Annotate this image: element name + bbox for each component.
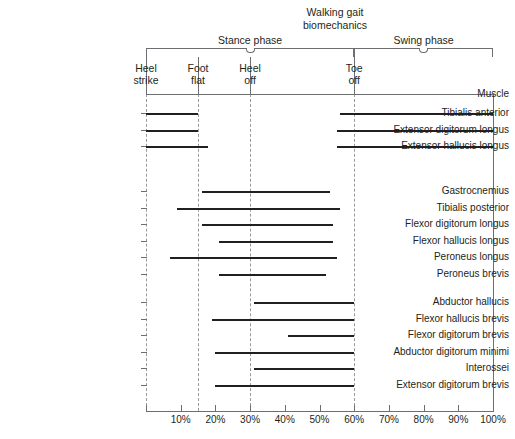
muscle-label-flexor-hallucis-brevis: Flexor hallucis brevis	[369, 313, 515, 324]
xtick-60	[354, 405, 355, 412]
muscle-label-peroneus-longus: Peroneus longus	[369, 251, 515, 262]
axis-left-cap	[146, 405, 147, 412]
muscle-label-flexor-hallucis-longus: Flexor hallucis longus	[369, 235, 515, 246]
muscle-row-tick-flexor-hallucis-brevis	[141, 319, 147, 320]
xtick-30	[250, 405, 251, 412]
event-gridline-1	[198, 94, 199, 411]
gait-biomechanics-chart: Walking gait biomechanics Stance phaseSw…	[0, 0, 515, 439]
muscle-label-abductor-digitorum-minimi: Abductor digitorum minimi	[369, 346, 515, 357]
muscle-label-gastrocnemius: Gastrocnemius	[369, 185, 515, 196]
xtick-40	[285, 405, 286, 412]
muscle-bar-peroneus-brevis-0	[219, 274, 327, 276]
muscle-label-tibialis-posterior: Tibialis posterior	[369, 202, 515, 213]
xtick-70	[389, 405, 390, 412]
xtick-100	[493, 405, 494, 412]
muscle-bar-interossei-0	[254, 368, 355, 370]
xtick-90	[458, 405, 459, 412]
muscle-label-flexor-digitorum-longus: Flexor digitorum longus	[369, 218, 515, 229]
muscle-bar-abductor-hallucis-0	[254, 302, 355, 304]
muscle-row-tick-flexor-digitorum-longus	[141, 224, 147, 225]
phase-label-swing-phase: Swing phase	[364, 34, 484, 46]
muscle-bar-tibialis-anterior-0	[146, 113, 198, 115]
muscle-row-tick-peroneus-brevis	[141, 274, 147, 275]
muscle-row-tick-tibialis-posterior	[141, 208, 147, 209]
muscle-bar-extensor-hallucis-longus-0	[146, 146, 208, 148]
event-gridline-3	[354, 94, 355, 411]
muscle-label-interossei: Interossei	[369, 362, 515, 373]
xtick-label-100: 100%	[473, 414, 513, 425]
muscle-row-tick-flexor-digitorum-brevis	[141, 335, 147, 336]
muscle-label-peroneus-brevis: Peroneus brevis	[369, 268, 515, 279]
muscle-bar-gastrocnemius-0	[202, 191, 330, 193]
muscle-bar-tibialis-anterior-1	[340, 113, 493, 115]
muscle-bar-extensor-hallucis-longus-1	[337, 146, 493, 148]
phase-bracket-nub-0	[246, 48, 255, 53]
muscle-bar-extensor-digitorum-brevis-0	[215, 385, 354, 387]
muscle-label-abductor-hallucis: Abductor hallucis	[369, 296, 515, 307]
event-label-3: Toe off	[322, 62, 386, 86]
event-label-2: Heel off	[218, 62, 282, 86]
muscle-row-tick-extensor-digitorum-brevis	[141, 385, 147, 386]
xtick-50	[320, 405, 321, 412]
muscle-row-tick-flexor-hallucis-longus	[141, 241, 147, 242]
xtick-10	[181, 405, 182, 412]
muscle-bar-extensor-digitorum-longus-1	[337, 130, 493, 132]
muscle-bar-extensor-digitorum-longus-0	[146, 130, 198, 132]
phase-label-stance-phase: Stance phase	[190, 34, 310, 46]
muscle-row-tick-abductor-digitorum-minimi	[141, 352, 147, 353]
chart-title: Walking gait biomechanics	[255, 6, 415, 32]
event-gridline-0	[146, 94, 147, 411]
muscle-label-extensor-digitorum-brevis: Extensor digitorum brevis	[369, 379, 515, 390]
muscle-bar-flexor-digitorum-brevis-0	[288, 335, 354, 337]
muscle-bar-flexor-digitorum-longus-0	[202, 224, 334, 226]
muscle-bar-abductor-digitorum-minimi-0	[215, 352, 354, 354]
muscle-bar-tibialis-posterior-0	[177, 208, 340, 210]
muscle-bar-flexor-hallucis-longus-0	[219, 241, 334, 243]
muscle-row-tick-interossei	[141, 368, 147, 369]
muscle-label-flexor-digitorum-brevis: Flexor digitorum brevis	[369, 329, 515, 340]
xtick-20	[215, 405, 216, 412]
muscle-row-tick-abductor-hallucis	[141, 302, 147, 303]
event-gridline-2	[250, 94, 251, 411]
muscle-column-header: Muscle	[369, 88, 515, 99]
muscle-row-tick-gastrocnemius	[141, 191, 147, 192]
xtick-80	[424, 405, 425, 412]
muscle-bar-flexor-hallucis-brevis-0	[212, 319, 354, 321]
muscle-row-tick-peroneus-longus	[141, 257, 147, 258]
muscle-bar-peroneus-longus-0	[170, 257, 337, 259]
